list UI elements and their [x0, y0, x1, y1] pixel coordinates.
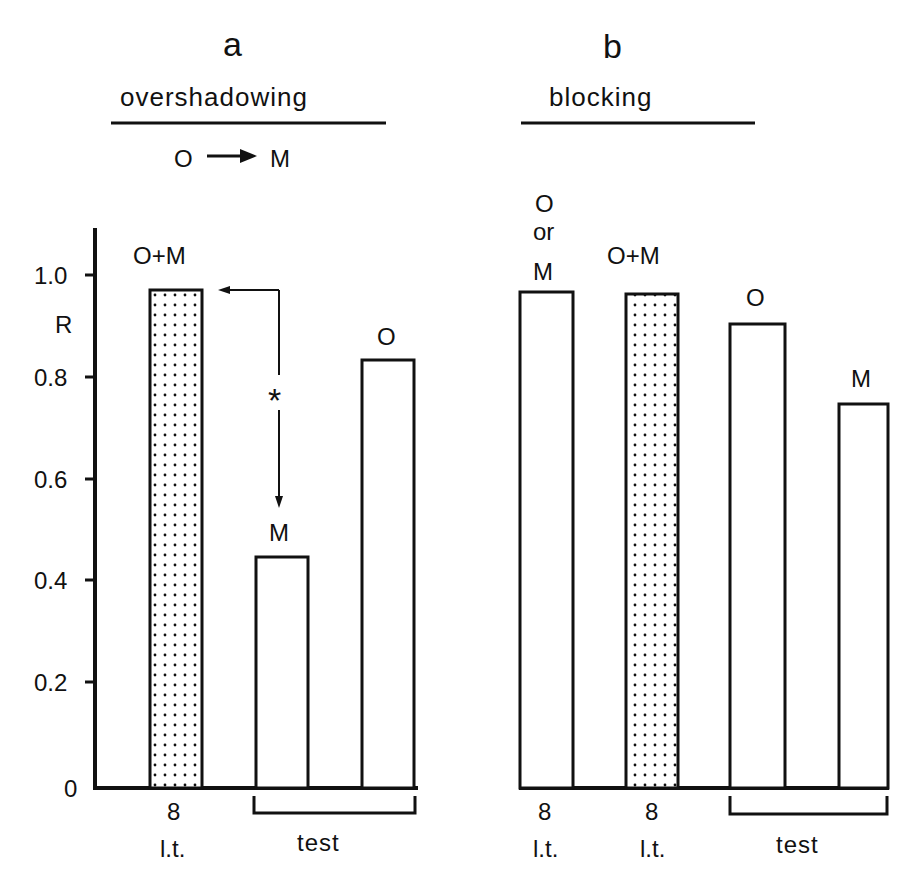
bar-b-om-label: O+M	[607, 242, 660, 269]
bar-a-o-label: O	[377, 323, 396, 350]
arrow-right-icon	[207, 149, 257, 163]
test-label-a: test	[297, 829, 340, 856]
y-tick-0: 0	[64, 775, 77, 802]
panel-a-letter: a	[223, 25, 242, 63]
test-label-b: test	[776, 831, 819, 858]
x-label-b2-8: 8	[645, 798, 658, 825]
y-tick-0.6: 0.6	[34, 466, 67, 493]
y-tick-1.0: 1.0	[34, 262, 67, 289]
bar-b-m	[839, 404, 888, 788]
bar-a-om-label: O+M	[133, 242, 186, 269]
y-tick-0.2: 0.2	[34, 669, 67, 696]
panel-a-sub-o: O	[174, 145, 193, 172]
significance-asterisk: *	[268, 381, 281, 419]
panel-a-y-axis	[85, 228, 95, 790]
panel-a-sub-m: M	[270, 145, 290, 172]
test-bracket-b	[730, 796, 887, 814]
bar-b-o	[730, 324, 785, 788]
panel-a-title: overshadowing	[120, 82, 308, 112]
bar-b-o-or-m	[520, 292, 573, 788]
bar-b-o-or-m-label-2: or	[533, 218, 554, 245]
bar-a-m-label: M	[269, 519, 289, 546]
bar-a-m	[256, 557, 308, 788]
bar-b-o-or-m-label-1: O	[535, 190, 554, 217]
panel-b-title: blocking	[549, 82, 652, 112]
x-label-a-8: 8	[167, 798, 180, 825]
y-tick-0.4: 0.4	[34, 567, 67, 594]
y-tick-0.8: 0.8	[34, 364, 67, 391]
x-label-b1-lt: l.t.	[533, 835, 558, 862]
bar-b-m-label: M	[851, 365, 871, 392]
bar-b-o-or-m-label-3: M	[533, 258, 553, 285]
bar-a-om	[150, 290, 202, 788]
bar-a-o	[362, 360, 414, 788]
x-label-b2-lt: l.t.	[640, 835, 665, 862]
bar-b-om	[626, 294, 678, 788]
figure: a overshadowing O M 1.0 R 0.8 0.6 0.4 0.…	[0, 0, 921, 885]
x-label-b1-8: 8	[538, 798, 551, 825]
x-label-a-lt: l.t.	[160, 835, 185, 862]
y-axis-label: R	[55, 311, 72, 338]
test-bracket-a	[254, 796, 415, 813]
panel-b-letter: b	[603, 27, 622, 65]
bar-b-o-label: O	[746, 284, 765, 311]
